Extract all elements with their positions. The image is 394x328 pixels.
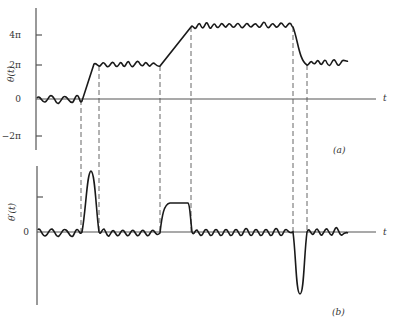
panel-a-caption: (a) — [333, 145, 346, 155]
ytick-0-b: 0 — [23, 227, 29, 237]
panel-b-caption: (b) — [332, 307, 345, 317]
dashed-guides — [81, 27, 307, 232]
panel-a-ylabel: θ(t) — [6, 65, 16, 82]
panel-b-xlabel: t — [383, 227, 387, 237]
panel-a-xlabel: t — [383, 93, 387, 103]
ytick-0: 0 — [15, 94, 21, 104]
theta-curve — [37, 22, 348, 103]
ytick-4pi: 4π — [9, 30, 21, 40]
panel-a-axes — [36, 8, 376, 150]
panel-b-ylabel: θ′(t) — [7, 202, 17, 221]
ytick-neg2pi: −2π — [2, 131, 21, 141]
phase-diagram: 4π 2π 0 −2π θ(t) t (a) 0 θ′(t) t (b) — [0, 0, 394, 328]
